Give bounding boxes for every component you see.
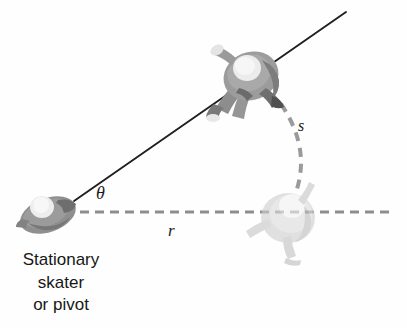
rotated-position-ray — [74, 12, 346, 201]
stationary-skater-caption: Stationary skater or pivot — [2, 249, 120, 317]
figure-canvas: θ r s Stationary skater or pivot — [0, 0, 407, 328]
angle-theta-label: θ — [96, 183, 105, 204]
stationary-skater-figure — [15, 189, 81, 241]
caption-line-1: Stationary — [2, 249, 120, 272]
rotated-skater-figure — [206, 42, 286, 122]
caption-line-3: or pivot — [2, 294, 120, 317]
caption-line-2: skater — [2, 272, 120, 295]
radius-r-label: r — [168, 221, 175, 241]
arc-length-s-label: s — [298, 117, 304, 135]
reference-skater-figure — [246, 182, 315, 266]
